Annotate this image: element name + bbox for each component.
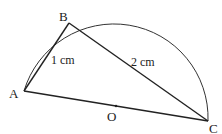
geometry-diagram: A B C O 1 cm 2 cm <box>0 0 222 134</box>
label-b: B <box>59 9 68 24</box>
label-bc-length: 2 cm <box>131 55 155 69</box>
segment-bc <box>69 23 208 121</box>
label-ab-length: 1 cm <box>51 53 75 67</box>
label-c: C <box>209 121 218 134</box>
center-point-o <box>115 105 117 107</box>
label-o: O <box>107 109 116 124</box>
label-a: A <box>9 86 19 101</box>
